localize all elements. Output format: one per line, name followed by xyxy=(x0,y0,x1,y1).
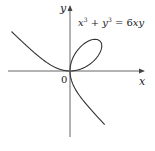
equation-label: x3 + y3 = 6xy xyxy=(78,17,144,28)
y-axis-arrow-icon xyxy=(68,5,73,11)
x-axis-arrow-icon xyxy=(139,69,145,74)
folium-curve xyxy=(12,32,105,125)
origin-label: 0 xyxy=(61,75,67,85)
y-axis-label: y xyxy=(60,3,66,14)
x-axis-label: x xyxy=(139,76,145,87)
